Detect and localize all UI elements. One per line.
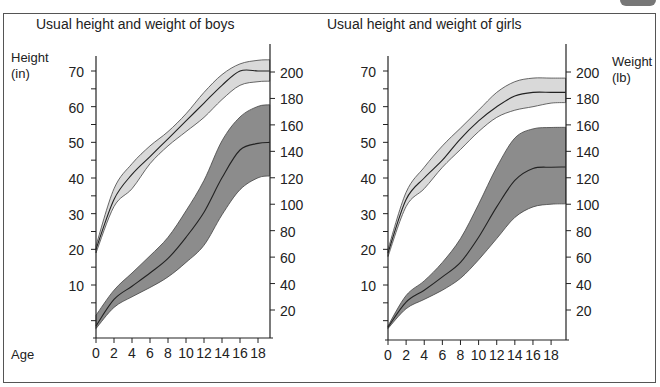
age-tick-label: 4 xyxy=(128,345,136,361)
height-tick-label: 20 xyxy=(360,242,376,258)
height-tick-label: 20 xyxy=(68,242,84,258)
weight-band xyxy=(388,127,566,328)
weight-tick-label: 60 xyxy=(576,250,592,266)
weight-tick-label: 40 xyxy=(280,277,296,293)
weight-tick-label: 160 xyxy=(280,118,304,134)
age-tick-label: 0 xyxy=(384,347,392,363)
weight-tick-label: 140 xyxy=(576,144,600,160)
height-tick-label: 70 xyxy=(360,64,376,80)
weight-tick-label: 120 xyxy=(576,171,600,187)
weight-tick-label: 180 xyxy=(576,91,600,107)
age-tick-label: 10 xyxy=(178,345,194,361)
age-tick-label: 16 xyxy=(232,345,248,361)
weight-tick-label: 120 xyxy=(280,171,304,187)
age-tick-label: 10 xyxy=(471,347,487,363)
weight-tick-label: 200 xyxy=(576,65,600,81)
age-tick-label: 12 xyxy=(196,345,212,361)
weight-tick-label: 20 xyxy=(576,303,592,319)
age-tick-label: 14 xyxy=(507,347,523,363)
weight-tick-label: 200 xyxy=(280,65,304,81)
height-tick-label: 50 xyxy=(68,135,84,151)
weight-tick-label: 40 xyxy=(576,277,592,293)
weight-tick-label: 100 xyxy=(576,197,600,213)
age-tick-label: 4 xyxy=(420,347,428,363)
age-tick-label: 6 xyxy=(146,345,154,361)
weight-tick-label: 60 xyxy=(280,250,296,266)
age-axis-label: Age xyxy=(11,347,34,362)
age-tick-label: 16 xyxy=(525,347,541,363)
age-tick-label: 8 xyxy=(457,347,465,363)
height-tick-label: 40 xyxy=(68,171,84,187)
weight-band xyxy=(96,105,270,329)
height-tick-label: 30 xyxy=(68,207,84,223)
girls-chart: Usual height and weight of girls10203040… xyxy=(327,16,653,363)
weight-tick-label: 160 xyxy=(576,118,600,134)
age-tick-label: 18 xyxy=(250,345,266,361)
height-tick-label: 40 xyxy=(360,171,376,187)
height-tick-label: 10 xyxy=(68,278,84,294)
weight-tick-label: 80 xyxy=(280,224,296,240)
height-tick-label: 30 xyxy=(360,207,376,223)
height-unit-label: (in) xyxy=(11,66,30,81)
height-tick-label: 60 xyxy=(360,100,376,116)
age-tick-label: 6 xyxy=(438,347,446,363)
age-tick-label: 14 xyxy=(214,345,230,361)
age-tick-label: 2 xyxy=(402,347,410,363)
weight-tick-label: 180 xyxy=(280,91,304,107)
chart-title: Usual height and weight of boys xyxy=(36,16,234,32)
weight-axis-label: Weight xyxy=(612,54,653,69)
weight-tick-label: 140 xyxy=(280,144,304,160)
age-tick-label: 12 xyxy=(489,347,505,363)
age-tick-label: 18 xyxy=(543,347,559,363)
boys-chart: Usual height and weight of boys102030405… xyxy=(11,16,304,362)
height-tick-label: 60 xyxy=(68,100,84,116)
age-tick-label: 8 xyxy=(164,345,172,361)
weight-tick-label: 80 xyxy=(576,224,592,240)
weight-unit-label: (lb) xyxy=(612,70,631,85)
height-axis-label: Height xyxy=(11,50,49,65)
height-tick-label: 10 xyxy=(360,278,376,294)
growth-charts: Usual height and weight of boys102030405… xyxy=(0,0,660,387)
age-tick-label: 0 xyxy=(92,345,100,361)
chart-title: Usual height and weight of girls xyxy=(327,16,522,32)
weight-tick-label: 100 xyxy=(280,197,304,213)
age-tick-label: 2 xyxy=(110,345,118,361)
height-tick-label: 70 xyxy=(68,64,84,80)
weight-tick-label: 20 xyxy=(280,303,296,319)
height-tick-label: 50 xyxy=(360,135,376,151)
